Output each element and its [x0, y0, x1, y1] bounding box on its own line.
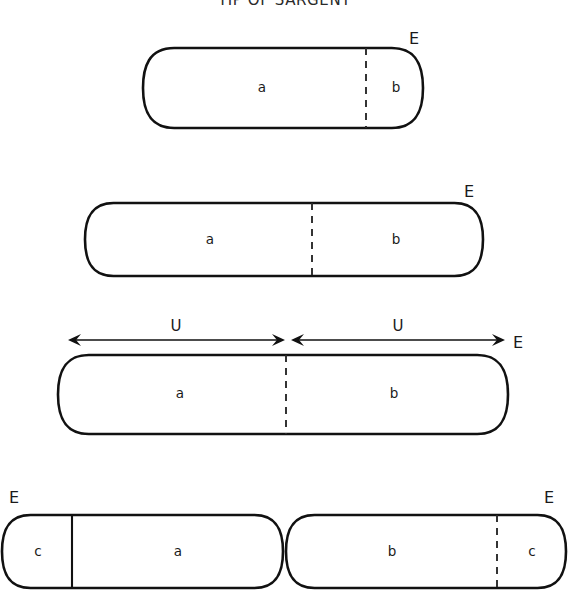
diagram-canvas: abEabEabEUUcaEbcE	[0, 0, 569, 603]
segment-label-b: b	[392, 79, 401, 95]
dimension-layer	[68, 334, 505, 346]
row4-pill-right	[286, 515, 566, 588]
end-label-e: E	[544, 488, 554, 507]
dimension-label-u: U	[171, 317, 182, 335]
segment-label-a: a	[258, 79, 266, 95]
end-label-e: E	[9, 488, 19, 507]
row3-pill	[58, 355, 508, 434]
row4-pill-left-outline	[2, 515, 283, 588]
segment-label-c: c	[528, 543, 535, 559]
row1-pill	[143, 48, 423, 128]
segment-label-b: b	[388, 543, 397, 559]
segment-label-a: a	[174, 543, 182, 559]
end-label-e: E	[464, 182, 474, 201]
end-label-e: E	[513, 333, 523, 352]
segment-label-a: a	[176, 385, 184, 401]
shapes-layer	[2, 48, 566, 588]
row1-pill-outline	[143, 48, 423, 128]
row2-pill-outline	[85, 203, 483, 276]
row2-pill	[85, 203, 483, 276]
segment-label-b: b	[392, 231, 401, 247]
row4-pill-left	[2, 515, 283, 588]
row4-pill-right-outline	[286, 515, 566, 588]
segment-label-c: c	[34, 543, 41, 559]
end-label-e: E	[409, 29, 419, 48]
figure-root: TIP OF SARGENT abEabEabEUUcaEbcE	[0, 0, 569, 603]
dimension-arrow-u	[291, 334, 505, 346]
dimension-arrow-u	[68, 334, 285, 346]
dimension-label-u: U	[393, 317, 404, 335]
segment-label-a: a	[206, 231, 214, 247]
row3-pill-outline	[58, 355, 508, 434]
segment-label-b: b	[390, 385, 399, 401]
